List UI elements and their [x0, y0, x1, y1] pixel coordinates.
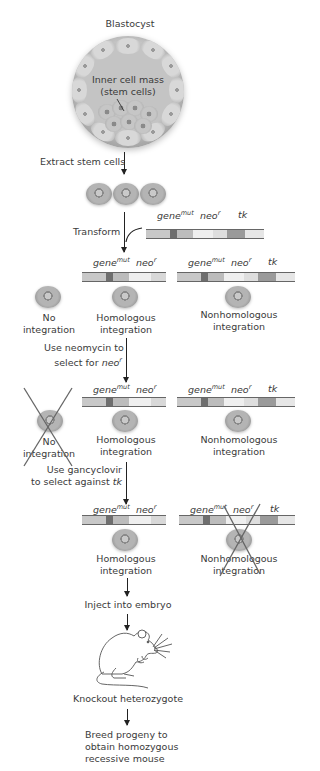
inject-into-embryo-label: Inject into embryo	[70, 599, 186, 611]
stem-cell-homologous	[112, 410, 138, 432]
blastocyst-label: Blastocyst	[100, 18, 160, 30]
pointer-line	[112, 98, 132, 114]
tk-label: tk	[268, 256, 277, 267]
gene-mut-label: genemut	[93, 503, 130, 515]
tk-label: tk	[238, 209, 247, 220]
dna-nonhomologous	[177, 397, 295, 407]
neo-r-label: neor	[200, 209, 220, 221]
homologous-integration-label: Homologousintegration	[88, 312, 164, 336]
stem-cell-nonhomologous	[225, 410, 251, 432]
neo-r-label: neor	[136, 383, 156, 395]
gene-mut-label: genemut	[188, 256, 225, 268]
nonhomologous-integration-label: Nonhomologousintegration	[193, 434, 285, 458]
neo-r-label: neor	[136, 256, 156, 268]
stem-cell-homologous	[112, 286, 138, 308]
arrow-neomycin	[126, 338, 127, 382]
arrow-inject	[127, 578, 128, 596]
tk-label: tk	[268, 383, 277, 394]
dna-construct	[146, 229, 264, 239]
cross-out-icon	[20, 384, 76, 470]
homologous-integration-label: Homologousintegration	[88, 434, 164, 458]
dna-insertion-curve	[124, 224, 148, 244]
arrow-ganciclovir	[126, 462, 127, 504]
neomycin-step-label: Use neomycin to select for neor	[44, 342, 122, 369]
nonhomologous-integration-label: Nonhomologousintegration	[193, 309, 285, 333]
extract-stem-cells-label: Extract stem cells	[40, 156, 125, 168]
gene-mut-label: genemut	[157, 209, 194, 221]
inner-cell-mass-label: Inner cell mass (stem cells)	[82, 74, 174, 98]
mouse-illustration	[76, 628, 176, 690]
stem-cell	[140, 183, 166, 205]
homologous-integration-label: Homologousintegration	[88, 553, 164, 577]
stem-cell-no-integration	[35, 286, 61, 308]
no-integration-label: Nointegration	[14, 312, 84, 336]
dna-homologous	[82, 397, 166, 407]
breed-progeny-label: Breed progeny to obtain homozygous reces…	[85, 729, 178, 765]
neo-r-label: neor	[231, 256, 251, 268]
tk-label: tk	[270, 503, 279, 514]
transform-label: Transform	[73, 226, 120, 238]
gene-mut-label: genemut	[188, 383, 225, 395]
gene-mut-label: genemut	[93, 383, 130, 395]
stem-cell-homologous	[112, 529, 138, 551]
stem-cell	[113, 183, 139, 205]
ganciclovir-step-label: Use gancyclovir to select against tk	[30, 464, 122, 488]
dna-homologous	[82, 272, 166, 282]
neo-r-label: neor	[136, 503, 156, 515]
gene-mut-label: genemut	[93, 256, 130, 268]
cross-out-icon	[210, 500, 270, 580]
arrow-breed	[127, 709, 128, 725]
dna-homologous	[82, 515, 166, 525]
dna-nonhomologous	[177, 272, 295, 282]
stem-cell	[86, 183, 112, 205]
neo-r-label: neor	[231, 383, 251, 395]
stem-cell-nonhomologous	[225, 286, 251, 308]
knockout-heterozygote-label: Knockout heterozygote	[66, 693, 190, 705]
